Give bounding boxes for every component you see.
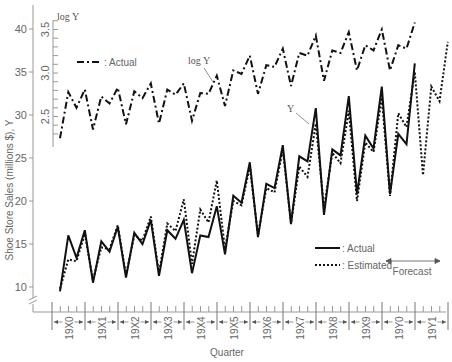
x-axis-label: Quarter [210,347,245,358]
year-label: 19X3 [163,316,174,340]
year-label: 19X6 [262,316,273,340]
forecast-arrow [386,259,440,264]
year-label: 19Y0 [394,316,405,340]
y-axis-log-label: log Y [57,11,79,22]
y-tick-label: 40 [15,23,27,35]
year-label: 19X5 [229,316,240,340]
series-actual-y [60,63,415,291]
annotation-log-y-arrow [204,68,213,82]
year-label: 19X1 [97,316,108,340]
year-label: 19X2 [130,316,141,340]
annotation-log-y: log Y [188,55,210,66]
log-ticks: 2.53.03.5 [39,21,58,134]
ticks: 10152025303540 [15,23,37,312]
series-log-y-actual [60,23,415,139]
x-ticks: 19X019X119X219X319X419X519X619X719X819X9… [52,302,448,343]
y-axis-label: Shoe Store Sales (millions $), Y [4,119,15,260]
y-tick-label: 15 [15,238,27,250]
year-label: 19X9 [361,316,372,340]
year-label: 19X7 [295,316,306,340]
log-tick-label: 3.0 [39,65,51,80]
y-tick-label: 20 [15,195,27,207]
year-label: 19Y1 [427,316,438,340]
chart: 10152025303540 2.53.03.5 19X019X119X219X… [0,0,452,362]
y-tick-label: 35 [15,66,27,78]
legends: : Actual: Actual: Estimated [77,57,392,271]
annotation-forecast: Forecast [393,266,432,277]
y-tick-label: 10 [15,281,27,293]
year-label: 19X0 [64,316,75,340]
legend-label: : Estimated [342,260,392,271]
log-tick-label: 3.5 [39,22,51,37]
annotation-y-arrow [296,113,309,124]
year-label: 19X4 [196,316,207,340]
y-tick-label: 25 [15,152,27,164]
legend-label-log-actual: : Actual [104,57,137,68]
log-tick-label: 2.5 [39,109,51,124]
year-label: 19X8 [328,316,339,340]
y-tick-label: 30 [15,109,27,121]
legend-label: : Actual [342,243,375,254]
annotation-y: Y [287,103,294,114]
